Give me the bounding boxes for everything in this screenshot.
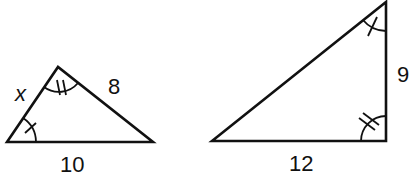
- left-triangle: [7, 67, 153, 142]
- double-tick-icon-second: [63, 80, 66, 95]
- label-base-12: 12: [289, 153, 313, 175]
- left-triangle-angle-mark-double: [44, 83, 78, 92]
- label-side-9: 9: [397, 64, 409, 86]
- label-side-8: 8: [108, 76, 120, 98]
- right-triangle: [212, 2, 386, 141]
- label-base-10: 10: [60, 154, 84, 176]
- label-side-x: x: [15, 83, 26, 105]
